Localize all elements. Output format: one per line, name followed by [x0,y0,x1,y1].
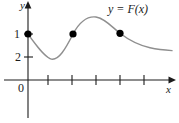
function-curve [28,17,172,59]
curve-equation-label: y = F(x) [108,3,148,15]
curve-point-marker [69,30,76,37]
curve-point-marker [24,30,31,37]
origin-label: 0 [18,82,24,94]
y-axis-tick-label-2: 1 [14,28,20,40]
y-axis-label: y [20,0,25,11]
y-axis-arrow-icon [25,1,32,9]
graph-canvas [0,0,179,123]
curve-point-marker [116,30,123,37]
x-axis-label: x [166,84,171,95]
y-axis-tick-label-1: 2 [15,51,21,63]
function-graph-figure: y x 1 2 0 y = F(x) [0,0,179,123]
